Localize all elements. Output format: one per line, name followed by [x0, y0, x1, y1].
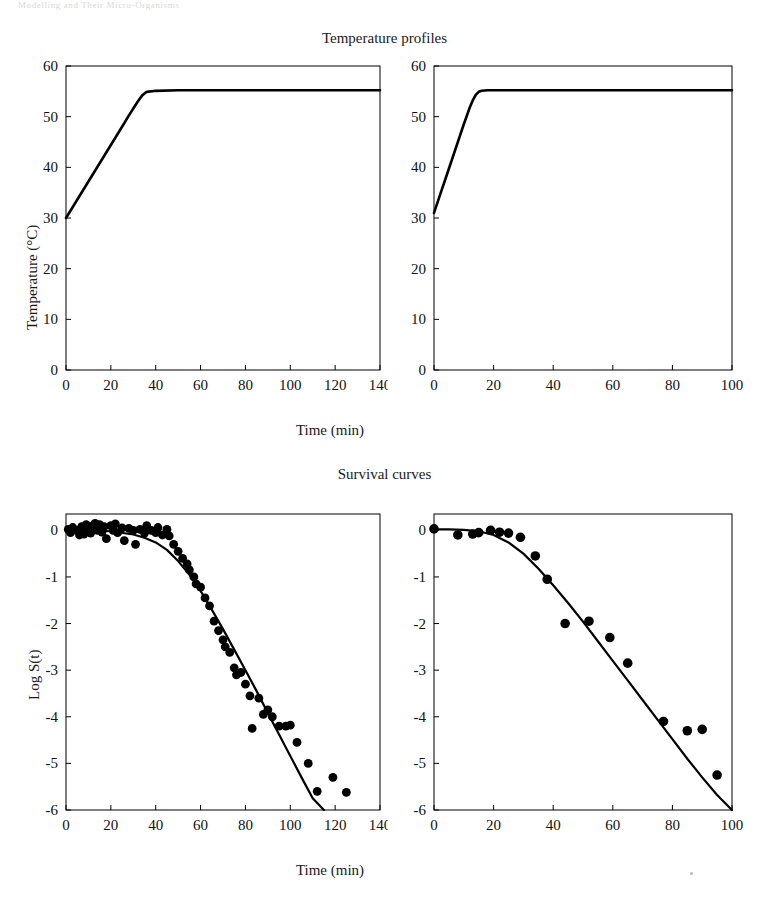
y-tick-label: -2: [414, 616, 427, 632]
data-point: [268, 712, 277, 721]
temperature-profiles-title: Temperature profiles: [0, 30, 769, 47]
x-tick-label: 40: [148, 817, 163, 833]
temperature-axis-label: Temperature (°C): [24, 225, 41, 330]
y-tick-label: -5: [46, 755, 59, 771]
data-point: [697, 725, 707, 735]
x-tick-label: 40: [148, 377, 163, 393]
data-point: [453, 530, 463, 540]
data-point: [102, 534, 111, 543]
y-tick-label: -2: [46, 616, 59, 632]
data-point: [286, 721, 295, 730]
stray-speck: [690, 872, 693, 875]
plot-frame: [434, 66, 732, 370]
x-tick-label: 80: [665, 377, 680, 393]
y-tick-label: -3: [414, 662, 427, 678]
temperature-left-plot: 0204060801001201400102030405060: [18, 52, 388, 412]
y-tick-label: -4: [46, 709, 59, 725]
data-point: [131, 540, 140, 549]
y-tick-label: 50: [411, 109, 426, 125]
fit-curve: [434, 529, 732, 810]
y-tick-label: 0: [51, 522, 59, 538]
data-point: [429, 524, 439, 534]
data-point: [659, 717, 669, 727]
x-tick-label: 80: [238, 817, 253, 833]
data-point: [495, 527, 505, 537]
running-head: Modelling and Their Micro-Organisms: [18, 0, 179, 10]
data-point: [304, 759, 313, 768]
data-point: [154, 523, 163, 532]
survival-curves-title: Survival curves: [0, 466, 769, 483]
x-tick-label: 100: [721, 817, 744, 833]
x-tick-label: 20: [103, 817, 118, 833]
x-tick-label: 20: [103, 377, 118, 393]
data-point: [584, 616, 594, 626]
plot-frame: [66, 514, 380, 810]
data-point: [504, 528, 514, 538]
survival-time-axis-label: Time (min): [230, 862, 430, 879]
x-tick-label: 40: [546, 817, 561, 833]
y-tick-label: 50: [43, 109, 58, 125]
temperature-right-plot: 0204060801000102030405060: [400, 52, 750, 412]
data-point: [165, 532, 174, 541]
data-line: [434, 90, 732, 213]
x-tick-label: 0: [62, 817, 70, 833]
survival-right-plot: 0204060801000-1-2-3-4-5-6: [400, 492, 750, 852]
x-tick-label: 120: [324, 377, 347, 393]
y-tick-label: 60: [411, 58, 426, 74]
data-point: [196, 583, 205, 592]
y-tick-label: 30: [411, 210, 426, 226]
x-tick-label: 140: [369, 377, 388, 393]
survival-left-plot: 0204060801001201400-1-2-3-4-5-6: [18, 492, 388, 852]
x-tick-label: 140: [369, 817, 388, 833]
temperature-right-panel: 0204060801000102030405060: [400, 52, 750, 412]
y-tick-label: 20: [43, 261, 58, 277]
y-tick-label: 0: [419, 362, 427, 378]
x-tick-label: 60: [605, 377, 620, 393]
y-tick-label: -6: [46, 802, 59, 818]
data-point: [531, 551, 541, 561]
data-point: [225, 648, 234, 657]
x-tick-label: 100: [721, 377, 744, 393]
x-tick-label: 60: [193, 817, 208, 833]
y-tick-label: 60: [43, 58, 58, 74]
data-point: [241, 680, 250, 689]
x-tick-label: 0: [62, 377, 70, 393]
data-point: [210, 617, 219, 626]
data-point: [329, 773, 338, 782]
data-point: [542, 574, 552, 584]
data-point: [201, 594, 210, 603]
log-survival-axis-label: Log S(t): [26, 650, 43, 700]
figure-page: Modelling and Their Micro-Organisms Temp…: [0, 0, 769, 909]
y-tick-label: 40: [43, 159, 58, 175]
data-point: [254, 694, 263, 703]
y-tick-label: 10: [43, 311, 58, 327]
x-tick-label: 80: [238, 377, 253, 393]
data-point: [712, 770, 722, 780]
plot-frame: [66, 66, 380, 370]
y-tick-label: 0: [51, 362, 59, 378]
data-point: [214, 626, 223, 635]
x-tick-label: 0: [430, 377, 438, 393]
data-point: [237, 668, 246, 677]
y-tick-label: 40: [411, 159, 426, 175]
survival-left-panel: 0204060801001201400-1-2-3-4-5-6: [18, 492, 388, 852]
data-point: [474, 528, 484, 538]
data-point: [248, 724, 257, 733]
plot-frame: [434, 514, 732, 810]
y-tick-label: -1: [414, 569, 427, 585]
data-point: [560, 619, 570, 629]
x-tick-label: 100: [279, 817, 302, 833]
data-point: [486, 526, 496, 536]
y-tick-label: -6: [414, 802, 427, 818]
y-tick-label: -4: [414, 709, 427, 725]
data-point: [516, 533, 526, 543]
y-tick-label: 10: [411, 311, 426, 327]
y-tick-label: -5: [414, 755, 427, 771]
fit-curve: [66, 529, 324, 810]
x-tick-label: 40: [546, 377, 561, 393]
data-point: [342, 788, 351, 797]
temperature-left-panel: 0204060801001201400102030405060: [18, 52, 388, 412]
x-tick-label: 100: [279, 377, 302, 393]
data-point: [605, 633, 615, 643]
data-point: [293, 738, 302, 747]
